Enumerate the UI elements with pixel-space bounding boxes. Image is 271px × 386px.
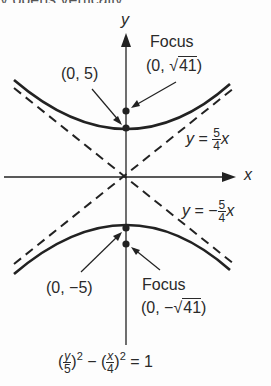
fraction: 54 [218, 199, 227, 224]
eq: = [198, 130, 207, 147]
lower-vertex-point [122, 224, 129, 231]
hyperbola-equation: (y5)2 − (x4)2 = 1 [58, 350, 153, 375]
coord-suffix: ) [201, 299, 206, 316]
upper-focus-leader [134, 82, 176, 106]
var: x [221, 130, 229, 147]
upper-vertex-label: (0, 5) [61, 66, 98, 82]
sqrt-icon: √ [169, 57, 178, 74]
var: x [226, 202, 234, 219]
lhs: y [186, 130, 194, 147]
fraction-x: x4 [106, 350, 114, 375]
y-axis-label: y [121, 12, 129, 28]
lower-focus-point [122, 240, 129, 247]
coord-prefix: (0, [146, 57, 169, 74]
upper-focus-point [122, 107, 129, 114]
y-axis-arrow-icon [121, 33, 131, 47]
minus: − [87, 353, 96, 370]
upper-branch [14, 80, 230, 129]
fraction: 54 [212, 127, 221, 152]
lower-branch [14, 225, 230, 274]
denominator: 4 [218, 212, 227, 224]
denominator: 4 [212, 140, 221, 152]
lhs: y [182, 202, 190, 219]
upper-focus-arrow-icon [131, 100, 140, 108]
lower-vertex-label: (0, −5) [46, 280, 93, 296]
asymptote-positive-label: y = 54x [186, 127, 229, 152]
lower-focus-coord: (0, −√41) [141, 300, 206, 316]
lower-focus-arrow-icon [131, 247, 140, 255]
asymptote-negative-label: y = −54x [182, 199, 234, 224]
radicand: 41 [178, 56, 197, 74]
denominator: 5 [63, 363, 71, 375]
x-axis-arrow-icon [222, 172, 236, 182]
upper-vertex-arrow-icon [113, 116, 122, 125]
exponent: 2 [120, 350, 126, 362]
radicand: 41 [182, 298, 201, 316]
x-axis-label: x [244, 167, 252, 183]
exponent: 2 [77, 350, 83, 362]
eq: = [194, 202, 203, 219]
rhs: = 1 [130, 353, 153, 370]
upper-focus-coord: (0, √41) [146, 58, 202, 74]
lower-vertex-leader [81, 235, 119, 272]
denominator: 4 [106, 363, 114, 375]
upper-vertex-leader [92, 89, 120, 122]
upper-vertex-point [122, 124, 129, 131]
coord-suffix: ) [197, 57, 202, 74]
cutoff-caption: y opens vertically … [0, 0, 271, 3]
lower-focus-title: Focus [142, 277, 186, 293]
cutoff-text: y opens vertically … [0, 0, 143, 3]
fraction-y: y5 [63, 350, 71, 375]
sign: − [208, 202, 217, 219]
sqrt-icon: √ [173, 299, 182, 316]
upper-focus-title: Focus [150, 34, 194, 50]
coord-prefix: (0, − [141, 299, 173, 316]
hyperbola-diagram [0, 0, 271, 386]
